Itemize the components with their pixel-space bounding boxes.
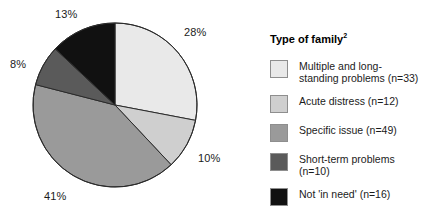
legend-title-text: Type of family <box>270 33 343 45</box>
legend-item: Multiple and long-standing problems (n=3… <box>270 59 420 84</box>
legend-swatch-acute-distress <box>270 95 288 113</box>
legend: Type of family2 Multiple and long-standi… <box>270 33 420 210</box>
legend-item: Specific issue (n=49) <box>270 123 420 142</box>
pie-value-label-short-term-problems: 8% <box>10 58 26 70</box>
legend-item: Not 'in need' (n=16) <box>270 187 420 206</box>
pie-svg <box>0 0 250 210</box>
pie-value-label-multiple-and-long-standing-problems: 28% <box>184 26 206 38</box>
pie-value-label-acute-distress: 10% <box>198 152 220 164</box>
legend-label-acute-distress: Acute distress (n=12) <box>299 94 399 108</box>
pie-chart-figure: 28% 10% 41% 8% 13% Type of family2 Multi… <box>0 0 422 210</box>
legend-label-not-in-need: Not 'in need' (n=16) <box>299 187 390 201</box>
legend-title: Type of family2 <box>270 33 420 46</box>
legend-swatch-not-in-need <box>270 188 288 206</box>
legend-swatch-multiple-and-long-standing-problems <box>270 60 288 78</box>
legend-label-specific-issue: Specific issue (n=49) <box>299 123 397 137</box>
legend-label-multiple-and-long-standing-problems: Multiple and long-standing problems (n=3… <box>299 59 420 84</box>
legend-swatch-short-term-problems <box>270 153 288 171</box>
pie-value-label-specific-issue: 41% <box>44 190 66 202</box>
legend-item: Short-term problems (n=10) <box>270 152 420 177</box>
legend-title-superscript: 2 <box>343 32 347 39</box>
pie-value-label-not-in-need: 13% <box>55 8 77 20</box>
legend-label-short-term-problems: Short-term problems (n=10) <box>299 152 420 177</box>
legend-item: Acute distress (n=12) <box>270 94 420 113</box>
legend-swatch-specific-issue <box>270 124 288 142</box>
pie-plot-area: 28% 10% 41% 8% 13% <box>0 0 250 210</box>
